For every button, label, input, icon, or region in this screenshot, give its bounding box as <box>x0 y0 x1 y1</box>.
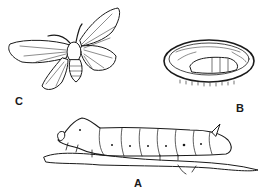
label-caterpillar: A <box>134 178 142 189</box>
label-moth: C <box>15 96 23 107</box>
caterpillar-drawing <box>44 118 258 174</box>
illustration <box>0 0 270 190</box>
moth-drawing <box>9 8 120 89</box>
label-cocoon: B <box>236 103 244 114</box>
cocoon-drawing <box>164 40 254 86</box>
